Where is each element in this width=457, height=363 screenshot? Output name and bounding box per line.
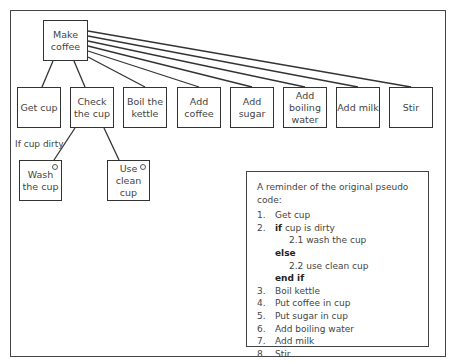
code-line: 2.if cup is dirty <box>257 222 418 235</box>
line-text: Put coffee in cup <box>275 297 350 310</box>
node-add-milk: Add milk <box>336 87 380 128</box>
line-number: 7. <box>257 335 275 348</box>
line-number: 5. <box>257 310 275 323</box>
code-line: 5.Put sugar in cup <box>257 310 418 323</box>
node-wash-the-cup: Wash the cup <box>19 160 62 201</box>
keyword-else: else <box>257 247 418 260</box>
node-label: Make coffee <box>44 29 87 53</box>
code-line: 4.Put coffee in cup <box>257 297 418 310</box>
line-number: 8. <box>257 348 275 361</box>
selection-circle-icon <box>52 164 58 170</box>
node-stir: Stir <box>389 87 433 128</box>
line-number: 4. <box>257 297 275 310</box>
selection-circle-icon <box>140 164 146 170</box>
node-add-sugar: Add sugar <box>230 87 274 128</box>
code-line: 6.Add boiling water <box>257 323 418 336</box>
line-text: Add boiling water <box>275 323 354 336</box>
node-add-coffee: Add coffee <box>177 87 221 128</box>
node-label: Stir <box>403 102 419 114</box>
code-line: 1.Get cup <box>257 209 418 222</box>
line-number: 1. <box>257 209 275 222</box>
code-line: 2.2 use clean cup <box>257 260 418 273</box>
code-line: 8.Stir <box>257 348 418 361</box>
line-text: Put sugar in cup <box>275 310 348 323</box>
node-label: Add boiling water <box>284 90 326 126</box>
condition-label: If cup dirty <box>15 139 64 149</box>
node-label: Check the cup <box>71 96 113 120</box>
line-text: Get cup <box>275 209 310 222</box>
code-line: 7.Add milk <box>257 335 418 348</box>
node-get-cup: Get cup <box>17 87 61 128</box>
node-label: Add milk <box>337 102 378 114</box>
line-number: 2. <box>257 222 275 235</box>
node-boil-the-kettle: Boil the kettle <box>123 87 167 128</box>
line-number: 6. <box>257 323 275 336</box>
line-text: Boil kettle <box>275 285 320 298</box>
reminder-title: A reminder of the original pseudo code: <box>257 181 418 206</box>
node-add-boiling-water: Add boiling water <box>283 87 327 128</box>
node-label: Wash the cup <box>20 169 61 193</box>
code-line: 3.Boil kettle <box>257 285 418 298</box>
node-check-the-cup: Check the cup <box>70 87 114 128</box>
keyword-end-if: end if <box>257 272 418 285</box>
node-make-coffee: Make coffee <box>43 20 88 61</box>
pseudo-code-reminder: A reminder of the original pseudo code: … <box>246 171 429 347</box>
node-label: Boil the kettle <box>124 96 166 120</box>
node-label: Add sugar <box>231 96 273 120</box>
code-line: 2.1 wash the cup <box>257 234 418 247</box>
keyword-if: if <box>275 222 282 235</box>
node-label: Add coffee <box>178 96 220 120</box>
line-text: Stir <box>275 348 290 361</box>
line-text: Add milk <box>275 335 314 348</box>
node-use-clean-cup: Use clean cup <box>107 160 150 201</box>
node-label: Get cup <box>20 102 57 114</box>
line-text: cup is dirty <box>282 222 335 235</box>
line-number: 3. <box>257 285 275 298</box>
